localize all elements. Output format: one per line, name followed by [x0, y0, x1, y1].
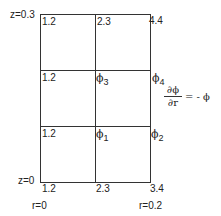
grid-left-edge	[40, 14, 41, 183]
value-left-row2: 1.2	[42, 129, 56, 139]
z-bottom-label: z=0	[18, 176, 34, 186]
value-bottom-right: 3.4	[150, 184, 164, 194]
grid-middle-vertical	[95, 14, 96, 183]
boundary-condition-equation: ∂ϕ ∂r = - ϕ	[163, 84, 221, 120]
value-top-middle: 2.3	[97, 17, 111, 27]
z-top-label: z=0.3	[10, 10, 35, 20]
grid-row-line-1	[40, 70, 151, 71]
r-left-label: r=0	[32, 201, 47, 211]
grid-row-line-2	[40, 126, 151, 127]
grid-top-edge	[40, 14, 151, 15]
value-bottom-left: 1.2	[42, 184, 56, 194]
fraction-numerator: ∂ϕ	[163, 84, 183, 96]
value-bottom-middle: 2.3	[96, 184, 110, 194]
node-phi3: ϕ3	[96, 73, 109, 88]
partial-derivative-fraction: ∂ϕ ∂r	[163, 84, 183, 109]
equation-rhs: = - ϕ	[185, 91, 210, 102]
value-left-row1: 1.2	[42, 73, 56, 83]
value-top-right: 4.4	[149, 16, 163, 26]
r-right-label: r=0.2	[139, 201, 162, 211]
value-top-left: 1.2	[42, 17, 56, 27]
fraction-denominator: ∂r	[163, 97, 183, 109]
node-phi2: ϕ2	[151, 129, 164, 144]
node-phi1: ϕ1	[96, 129, 109, 144]
grid-right-edge	[150, 14, 151, 183]
